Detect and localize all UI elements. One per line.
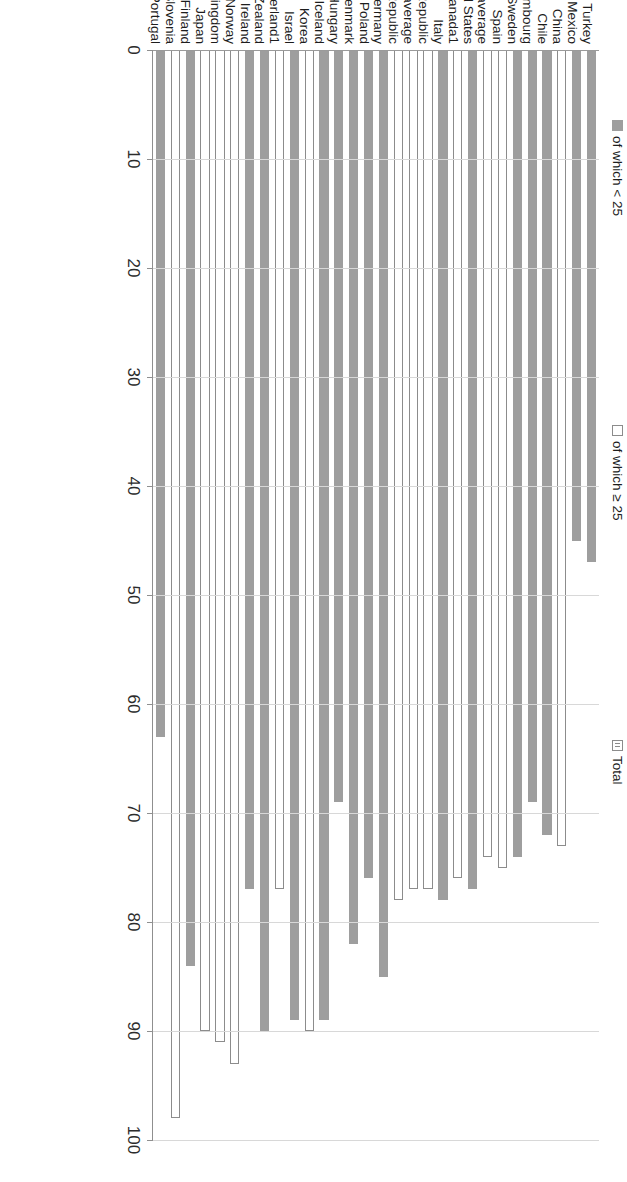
axis-tick-80 <box>147 922 153 923</box>
category-label-iceland: Iceland <box>311 0 326 44</box>
bar-slovak-republic <box>423 50 432 889</box>
gridline-10 <box>153 159 599 160</box>
category-label-new-zealand: New Zealand <box>252 0 267 44</box>
bar-china <box>557 50 566 846</box>
plot-area <box>153 50 599 1140</box>
category-label-turkey: Turkey <box>579 3 594 44</box>
category-label-ireland: Ireland <box>237 3 252 44</box>
axis-tick-label-100: 100 <box>123 1120 143 1160</box>
category-label-sweden: Sweden <box>505 0 520 44</box>
bar-denmark <box>349 50 358 944</box>
gridline-70 <box>153 813 599 814</box>
category-label-japan: Japan <box>193 7 208 44</box>
category-label-hungary: Hungary <box>326 0 341 44</box>
category-label-slovak-republic: Slovak Republic <box>416 0 431 44</box>
gridline-40 <box>153 486 599 487</box>
category-label-oecd-average: OECD average <box>401 0 416 44</box>
bar-switzerland1 <box>275 50 284 889</box>
bar-luxembourg <box>528 50 537 802</box>
bar-germany <box>379 50 388 977</box>
legend-label-total: Total <box>610 756 625 785</box>
axis-tick-label-20: 20 <box>123 248 143 288</box>
bar-iceland <box>319 50 328 1020</box>
bar-spain <box>498 50 507 868</box>
category-label-switzerland1: Switzerland1 <box>267 0 282 44</box>
legend-swatch-hollow-icon <box>612 425 623 436</box>
gridline-20 <box>153 268 599 269</box>
legend-item-of-which-gte-25: of which ≥ 25 <box>610 425 625 520</box>
category-label-poland: Poland <box>356 2 371 44</box>
axis-tick-90 <box>147 1031 153 1032</box>
category-label-luxembourg: Luxembourg <box>520 0 535 44</box>
category-label-united-states: United States <box>460 0 475 44</box>
gridline-30 <box>153 377 599 378</box>
axis-tick-label-80: 80 <box>123 902 143 942</box>
axis-tick-label-90: 90 <box>123 1011 143 1051</box>
category-label-korea: Korea <box>297 8 312 44</box>
chart-stage: of which < 25 of which ≥ 25 Total 010203… <box>0 0 627 1182</box>
category-label-g20-average: G20 average <box>475 0 490 44</box>
axis-tick-label-50: 50 <box>123 575 143 615</box>
category-label-united-kingdom: United Kingdom <box>207 0 222 44</box>
bar-united-kingdom <box>215 50 224 1042</box>
category-label-canada1: Canada1 <box>445 0 460 44</box>
axis-tick-10 <box>147 159 153 160</box>
category-label-denmark: Denmark <box>341 0 356 44</box>
axis-tick-label-30: 30 <box>123 357 143 397</box>
category-label-italy: Italy <box>430 19 445 44</box>
bar-new-zealand <box>260 50 269 1031</box>
category-label-chile: Chile <box>534 13 549 44</box>
axis-tick-30 <box>147 377 153 378</box>
axis-tick-label-70: 70 <box>123 793 143 833</box>
bar-italy <box>438 50 447 900</box>
bar-poland <box>364 50 373 878</box>
bar-czech-republic <box>394 50 403 900</box>
category-label-finland: Finland <box>178 0 193 44</box>
gridline-0 <box>153 50 599 51</box>
axis-tick-40 <box>147 486 153 487</box>
category-label-israel: Israel <box>282 11 297 44</box>
legend-label-of-which-gte-25: of which ≥ 25 <box>610 441 625 520</box>
gridline-50 <box>153 595 599 596</box>
legend-item-total: Total <box>610 740 625 785</box>
legend-item-of-which-lt-25: of which < 25 <box>610 120 625 216</box>
bar-portugal <box>156 50 165 737</box>
legend-swatch-filled-icon <box>612 120 623 131</box>
axis-tick-60 <box>147 704 153 705</box>
gridline-80 <box>153 922 599 923</box>
bar-israel <box>290 50 299 1020</box>
bar-norway <box>230 50 239 1064</box>
axis-tick-50 <box>147 595 153 596</box>
legend-swatch-total-icon <box>612 740 623 751</box>
gridline-100 <box>153 1140 599 1141</box>
axis-tick-label-40: 40 <box>123 466 143 506</box>
bar-oecd-average <box>409 50 418 889</box>
gridline-60 <box>153 704 599 705</box>
bar-japan <box>200 50 209 1031</box>
category-label-germany: Germany <box>371 0 386 44</box>
bar-hungary <box>334 50 343 802</box>
category-label-slovenia: Slovenia <box>163 0 178 44</box>
chart-legend: of which < 25 of which ≥ 25 Total <box>603 120 625 1020</box>
bar-united-states <box>468 50 477 889</box>
axis-tick-label-10: 10 <box>123 139 143 179</box>
bar-g20-average <box>483 50 492 857</box>
bar-mexico <box>572 50 581 541</box>
category-label-mexico: Mexico <box>564 1 579 44</box>
gridline-90 <box>153 1031 599 1032</box>
category-label-norway: Norway <box>222 0 237 44</box>
bar-ireland <box>245 50 254 889</box>
bar-chile <box>542 50 551 835</box>
axis-tick-20 <box>147 268 153 269</box>
bar-slovenia <box>171 50 180 1118</box>
category-label-czech-republic: Czech Republic <box>386 0 401 44</box>
axis-tick-label-0: 0 <box>123 30 143 70</box>
axis-tick-0 <box>147 50 153 51</box>
category-label-spain: Spain <box>490 9 505 44</box>
axis-tick-100 <box>147 1140 153 1141</box>
axis-tick-70 <box>147 813 153 814</box>
axis-tick-label-60: 60 <box>123 684 143 724</box>
legend-label-of-which-lt-25: of which < 25 <box>610 136 625 216</box>
bar-sweden <box>513 50 522 857</box>
category-label-china: China <box>549 9 564 44</box>
